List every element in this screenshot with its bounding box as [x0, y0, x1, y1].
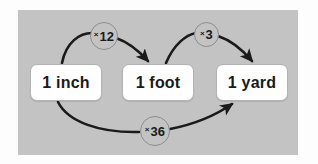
factor-value: 12: [99, 30, 114, 43]
unit-box-inch[interactable]: 1 inch: [30, 64, 102, 101]
factor-badge-inch-to-foot[interactable]: × 12: [90, 22, 118, 50]
factor-badge-foot-to-yard[interactable]: × 3: [194, 22, 219, 47]
factor-value: 3: [206, 28, 213, 41]
unit-box-inch-label: 1 inch: [42, 75, 89, 91]
arrow-inch-to-yard: [58, 102, 139, 132]
unit-box-foot[interactable]: 1 foot: [122, 64, 194, 101]
diagram-canvas: 1 inch 1 foot 1 yard × 12 × 3 × 36: [0, 0, 318, 164]
factor-badge-inch-to-foot-text: × 12: [94, 30, 115, 43]
unit-box-yard-label: 1 yard: [228, 75, 276, 91]
arrow-foot-to-yard: [166, 33, 196, 63]
factor-badge-inch-to-yard-text: × 36: [145, 125, 166, 138]
factor-badge-inch-to-yard[interactable]: × 36: [140, 116, 170, 146]
arrow-inch-to-foot-head: [116, 38, 148, 61]
arrow-inch-to-foot: [62, 33, 92, 63]
multiply-icon: ×: [200, 30, 205, 38]
unit-box-yard[interactable]: 1 yard: [216, 64, 288, 101]
arrow-inch-to-yard-head: [170, 104, 232, 129]
arrow-foot-to-yard-head: [218, 36, 252, 61]
unit-box-foot-label: 1 foot: [136, 75, 181, 91]
factor-value: 36: [150, 125, 165, 138]
multiply-icon: ×: [94, 31, 99, 39]
multiply-icon: ×: [145, 126, 150, 134]
factor-badge-foot-to-yard-text: × 3: [200, 28, 213, 41]
